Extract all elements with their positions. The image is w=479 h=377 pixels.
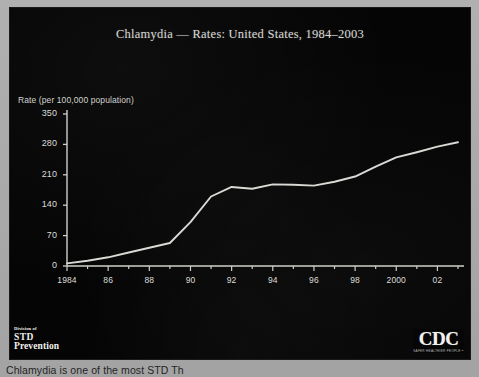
y-tick-label: 280 bbox=[23, 138, 57, 148]
slide-texture-overlay bbox=[10, 8, 470, 359]
x-tick-label: 2000 bbox=[387, 275, 406, 285]
x-tick-label: 92 bbox=[227, 275, 237, 285]
std-prevention-logo: Division of STD Prevention bbox=[14, 327, 59, 351]
x-tick-label: 96 bbox=[309, 275, 319, 285]
slide-panel: Chlamydia — Rates: United States, 1984–2… bbox=[10, 8, 470, 359]
x-tick-label: 88 bbox=[144, 275, 154, 285]
cdc-tagline: SAFER·HEALTHIER·PEOPLE™ bbox=[413, 349, 464, 353]
y-tick-label: 140 bbox=[23, 199, 57, 209]
x-tick-label: 02 bbox=[433, 275, 443, 285]
x-tick-label: 94 bbox=[268, 275, 278, 285]
cdc-wordmark: CDC bbox=[413, 329, 464, 348]
x-tick-label: 98 bbox=[350, 275, 360, 285]
y-tick-label: 350 bbox=[23, 108, 57, 118]
y-tick-label: 70 bbox=[23, 230, 57, 240]
chart-plot-area bbox=[10, 8, 470, 359]
page-background: Chlamydia — Rates: United States, 1984–2… bbox=[0, 0, 479, 377]
page-caption-text: Chlamydia is one of the most STD Th bbox=[6, 364, 476, 377]
std-logo-line2: Prevention bbox=[14, 342, 59, 352]
x-tick-label: 1984 bbox=[57, 275, 76, 285]
chart-title: Chlamydia — Rates: United States, 1984–2… bbox=[10, 27, 470, 42]
y-tick-label: 210 bbox=[23, 169, 57, 179]
y-axis-label: Rate (per 100,000 population) bbox=[18, 95, 134, 105]
x-tick-label: 86 bbox=[103, 275, 113, 285]
cdc-logo: CDC SAFER·HEALTHIER·PEOPLE™ bbox=[413, 329, 464, 353]
y-tick-label: 0 bbox=[23, 260, 57, 270]
x-tick-label: 90 bbox=[186, 275, 196, 285]
